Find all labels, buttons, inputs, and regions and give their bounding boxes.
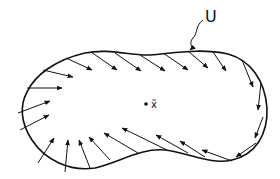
diagram-canvas: U x̃	[0, 0, 280, 179]
vector-arrow	[122, 128, 167, 150]
label-leader-line	[190, 20, 203, 50]
vector-arrow	[43, 70, 73, 77]
vector-arrow	[89, 137, 110, 160]
vector-arrow	[213, 52, 226, 71]
vector-arrow	[66, 58, 92, 70]
vector-arrow	[115, 53, 141, 71]
vector-arrow	[258, 83, 261, 110]
region-boundary	[22, 51, 267, 169]
region-label: U	[205, 7, 217, 26]
vector-arrow	[188, 51, 208, 68]
vector-arrow	[140, 55, 165, 71]
interior-point-marker	[144, 102, 148, 106]
vector-field-arrows	[18, 51, 263, 172]
vector-arrow	[79, 140, 90, 168]
vector-arrow	[91, 52, 117, 70]
vector-arrow	[163, 53, 188, 70]
point-label: x̃	[151, 99, 157, 110]
vector-arrow	[104, 133, 138, 153]
vector-arrow	[65, 140, 68, 172]
